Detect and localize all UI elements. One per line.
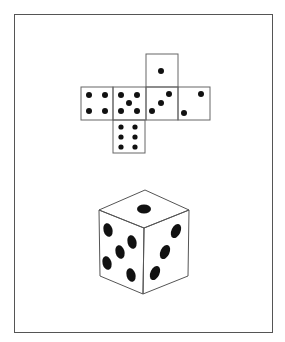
dice-figure xyxy=(0,0,285,342)
die-net xyxy=(81,54,210,153)
net-face-row-1 xyxy=(81,87,113,120)
die-pips xyxy=(101,205,183,283)
net-face-bottom xyxy=(113,120,145,153)
